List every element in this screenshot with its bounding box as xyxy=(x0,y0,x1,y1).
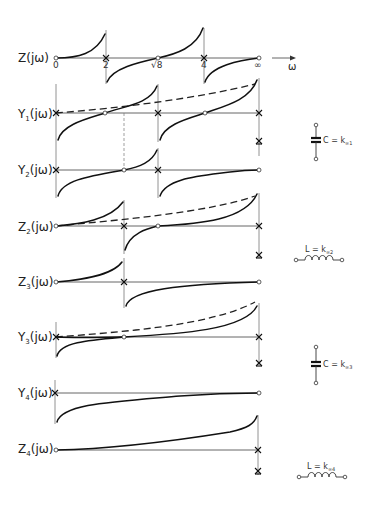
plot-z4 xyxy=(54,415,261,475)
reactance-diagram: Z(jω) Y1(jω) Y2(jω) Z2(jω) Z3(jω) Y3(jω)… xyxy=(0,0,367,505)
tick-inf: ∞ xyxy=(254,60,262,70)
plot-y4 xyxy=(52,380,261,424)
plot-y1 xyxy=(53,78,262,172)
element-inductor-4: L = k∞4 xyxy=(297,462,347,479)
plot-z2 xyxy=(54,193,262,258)
label-y1: Y1(jω) xyxy=(17,107,53,123)
label-y4: Y4(jω) xyxy=(17,386,53,402)
plot-z: 0 2 √8 4 ∞ ω xyxy=(53,28,296,84)
plot-y3 xyxy=(53,302,262,366)
capacitor-3-label: C = k∞3 xyxy=(323,360,352,370)
label-z3: Z3(jω) xyxy=(18,275,53,291)
plot-y2 xyxy=(53,142,261,198)
plot-z3 xyxy=(54,258,261,308)
inductor-4-label: L = k∞4 xyxy=(307,462,335,472)
tick-sqrt8: √8 xyxy=(151,60,163,70)
row-labels: Z(jω) Y1(jω) Y2(jω) Z2(jω) Z3(jω) Y3(jω)… xyxy=(17,51,53,458)
omega-label: ω xyxy=(288,61,296,72)
capacitor-1-label: C = k∞1 xyxy=(323,136,352,146)
label-z2: Z2(jω) xyxy=(18,220,53,236)
tick-2: 2 xyxy=(103,60,109,70)
label-z4: Z4(jω) xyxy=(18,442,53,458)
element-capacitor-1: C = k∞1 xyxy=(311,123,352,161)
label-y3: Y3(jω) xyxy=(17,330,53,346)
tick-0: 0 xyxy=(53,60,59,70)
label-z: Z(jω) xyxy=(18,51,49,65)
element-capacitor-3: C = k∞3 xyxy=(311,345,352,385)
label-y2: Y2(jω) xyxy=(17,163,53,179)
element-inductor-2: L = k∞2 xyxy=(294,245,344,262)
inductor-2-label: L = k∞2 xyxy=(305,245,333,255)
tick-4: 4 xyxy=(201,60,207,70)
